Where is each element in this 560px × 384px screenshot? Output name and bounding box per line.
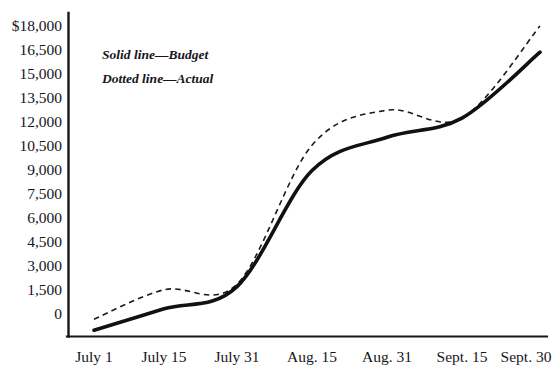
y-tick-label: 0 [54, 305, 62, 322]
y-tick-label: 15,000 [19, 65, 62, 82]
y-tick-label: 16,500 [19, 41, 62, 58]
x-tick-label: July 1 [75, 348, 112, 365]
legend-group: Solid line—Budget Dotted line—Actual [101, 47, 214, 86]
y-tick-label: 13,500 [19, 89, 62, 106]
legend-item-budget: Solid line—Budget [102, 47, 209, 62]
x-tick-label: July 15 [141, 348, 186, 365]
y-tick-label: 10,500 [19, 137, 62, 154]
series-line-actual [94, 26, 540, 319]
y-tick-label: $18,000 [12, 17, 63, 34]
y-tick-label: 1,500 [27, 281, 62, 298]
y-tick-label: 7,500 [27, 185, 62, 202]
x-tick-label: Aug. 31 [362, 348, 412, 365]
y-tick-label: 4,500 [27, 233, 62, 250]
series-line-budget [94, 52, 540, 330]
y-tick-label: 6,000 [27, 209, 62, 226]
y-tick-label: 3,000 [27, 257, 62, 274]
x-tick-label: July 31 [214, 348, 259, 365]
budget-vs-actual-line-chart: $18,000 16,500 15,000 13,500 12,000 10,5… [0, 0, 560, 384]
x-tick-label: Sept. 30 [501, 348, 552, 365]
y-tick-label: 12,000 [19, 113, 62, 130]
x-tick-label: Aug. 15 [287, 348, 337, 365]
legend-item-actual: Dotted line—Actual [101, 71, 214, 86]
chart-canvas: $18,000 16,500 15,000 13,500 12,000 10,5… [0, 0, 560, 384]
x-axis-tick-labels: July 1 July 15 July 31 Aug. 15 Aug. 31 S… [75, 348, 551, 365]
x-tick-label: Sept. 15 [437, 348, 488, 365]
y-tick-label: 9,000 [27, 161, 62, 178]
y-axis-tick-labels: $18,000 16,500 15,000 13,500 12,000 10,5… [12, 17, 63, 322]
